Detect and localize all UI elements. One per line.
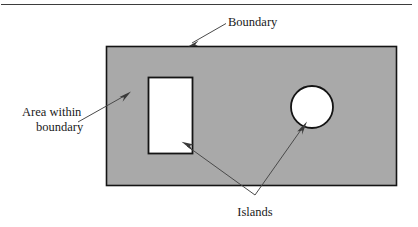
diagram-canvas: Boundary Area within boundary Islands bbox=[0, 0, 418, 227]
area-within-label-line1: Area within bbox=[22, 105, 82, 119]
islands-label: Islands bbox=[237, 205, 273, 219]
rectangular-island bbox=[149, 78, 193, 154]
boundary-arrowhead bbox=[188, 41, 199, 47]
circular-island bbox=[291, 86, 333, 128]
boundary-leader-line bbox=[192, 24, 226, 44]
boundary-label: Boundary bbox=[228, 15, 278, 29]
diagram-figure: Boundary Area within boundary Islands bbox=[0, 0, 418, 227]
area-within-label-line2: boundary bbox=[36, 120, 84, 134]
